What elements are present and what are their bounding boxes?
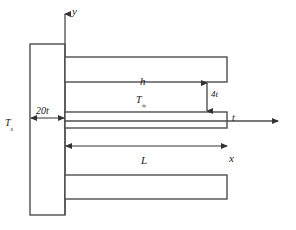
convection-coefficient-label: h	[140, 76, 146, 87]
fluid-temperature-subscript: ∞	[142, 102, 147, 110]
fluid-temperature-label: T∞	[136, 95, 147, 108]
x-axis-label: x	[229, 153, 234, 164]
fin-top	[65, 57, 227, 82]
wall-thickness-label: 20t	[36, 106, 49, 116]
y-axis-label: y	[72, 6, 77, 17]
fin-bottom	[65, 175, 227, 199]
fin-thickness-label: t	[232, 113, 235, 123]
fin-middle	[65, 112, 227, 128]
base-temperature-subscript: s	[11, 125, 13, 132]
fin-array-diagram: y x Ts 20t h T∞ 4t t L	[0, 0, 296, 230]
base-wall-block	[30, 44, 65, 215]
base-temperature-symbol: T	[5, 117, 11, 128]
fin-length-label: L	[141, 155, 147, 166]
fluid-temperature-symbol: T	[136, 94, 142, 105]
fin-gap-label: 4t	[211, 90, 218, 99]
base-temperature-label: Ts	[5, 118, 13, 130]
